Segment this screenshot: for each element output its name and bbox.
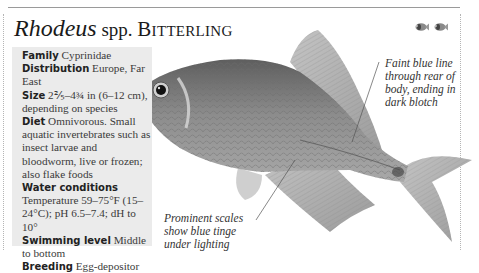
callout-rear-body: Faint blue line through rear of body, en… bbox=[385, 57, 465, 109]
diet-row: Diet Omnivorous. Small aquatic invertebr… bbox=[22, 115, 152, 181]
swimming-level-row: Swimming level Middle to bottom bbox=[22, 234, 152, 260]
water-conditions-row: Water conditionsTemperature 59–75°F (15–… bbox=[22, 181, 152, 234]
callout-scales: Prominent scales show blue tinge under l… bbox=[164, 212, 259, 251]
size-row: Size 2⅖–4¾ in (6–12 cm), depending on sp… bbox=[22, 89, 152, 115]
family-row: Family Cyprinidae bbox=[22, 49, 152, 62]
fact-box: Family Cyprinidae Distribution Europe, F… bbox=[12, 47, 152, 246]
distribution-row: Distribution Europe, Far East bbox=[22, 62, 152, 88]
breeding-row: Breeding Egg-depositor bbox=[22, 260, 152, 273]
